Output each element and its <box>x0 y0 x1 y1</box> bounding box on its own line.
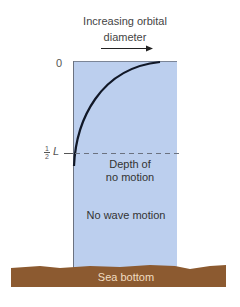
diagram-canvas <box>0 0 240 307</box>
title-line-1: Increasing orbital <box>40 13 210 29</box>
title-line-2: diameter <box>40 29 210 45</box>
fraction-numerator: 1 <box>44 145 50 153</box>
arrow-right-icon <box>146 46 153 52</box>
depth-of-no-motion-label: Depth of no motion <box>90 158 170 184</box>
fraction: 1 2 <box>44 145 50 160</box>
half-wavelength-label: 1 2 L <box>44 145 59 160</box>
orbital-diameter-title: Increasing orbital diameter <box>40 13 210 45</box>
depth-label-line-1: Depth of <box>90 158 170 171</box>
sea-bottom-label: Sea bottom <box>80 271 172 283</box>
no-wave-motion-label: No wave motion <box>80 209 172 221</box>
wavelength-symbol: L <box>53 145 59 157</box>
fraction-denominator: 2 <box>45 153 49 160</box>
zero-depth-label: 0 <box>56 57 62 69</box>
depth-label-line-2: no motion <box>90 171 170 184</box>
